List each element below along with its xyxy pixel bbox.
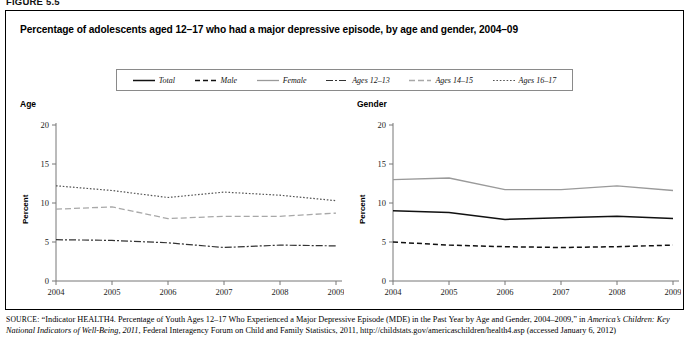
series-line-ages-14-15 [56, 207, 336, 219]
y-tick-label: 10 [41, 198, 50, 208]
line-chart-gender: 05101520200420052006200720082009 [351, 109, 681, 304]
chart-panel-age: Age Percent 0510152020042005200620072008… [14, 99, 344, 304]
y-tick-label: 15 [41, 159, 50, 169]
source-prefix: SOURCE: [6, 315, 39, 324]
chart-legend: TotalMaleFemaleAges 12–13Ages 14–15Ages … [116, 69, 573, 91]
panel-label-age: Age [20, 99, 36, 109]
legend-item-female: Female [257, 76, 307, 85]
legend-swatch-icon [195, 77, 217, 84]
x-tick-label: 2008 [609, 287, 626, 297]
legend-label: Ages 12–13 [352, 76, 390, 85]
legend-swatch-icon [257, 77, 279, 84]
y-tick-label: 20 [41, 120, 50, 130]
legend-label: Female [283, 76, 307, 85]
legend-swatch-icon [326, 77, 348, 84]
legend-item-total: Total [133, 76, 175, 85]
legend-label: Ages 16–17 [519, 76, 557, 85]
x-tick-label: 2004 [48, 287, 66, 297]
legend-label: Ages 14–15 [435, 76, 473, 85]
y-tick-label: 20 [378, 120, 387, 130]
legend-label: Total [159, 76, 175, 85]
x-tick-label: 2006 [497, 287, 514, 297]
series-line-ages-12-13 [56, 240, 336, 248]
source-text-part2: , Federal Interagency Forum on Child and… [139, 326, 617, 335]
x-tick-label: 2006 [160, 287, 177, 297]
legend-item-ages-16-17: Ages 16–17 [493, 76, 557, 85]
x-tick-label: 2007 [216, 287, 233, 297]
legend-item-male: Male [195, 76, 237, 85]
legend-item-ages-12-13: Ages 12–13 [326, 76, 390, 85]
figure-page: FIGURE 5.5 Percentage of adolescents age… [0, 0, 691, 360]
legend-swatch-icon [493, 77, 515, 84]
figure-panel: Percentage of adolescents aged 12–17 who… [5, 10, 684, 310]
x-tick-label: 2009 [328, 287, 345, 297]
x-tick-label: 2004 [385, 287, 403, 297]
x-tick-label: 2005 [104, 287, 121, 297]
y-tick-label: 0 [382, 276, 386, 286]
legend-swatch-icon [409, 77, 431, 84]
y-tick-label: 5 [45, 237, 49, 247]
legend-swatch-icon [133, 77, 155, 84]
chart-title: Percentage of adolescents aged 12–17 who… [20, 23, 660, 36]
x-tick-label: 2007 [553, 287, 570, 297]
series-line-female [393, 178, 673, 191]
figure-label: FIGURE 5.5 [6, 0, 60, 7]
line-chart-age: 05101520200420052006200720082009 [14, 109, 344, 304]
chart-panel-gender: Gender Percent 0510152020042005200620072… [351, 99, 681, 304]
x-tick-label: 2008 [272, 287, 289, 297]
legend-item-ages-14-15: Ages 14–15 [409, 76, 473, 85]
series-line-total [393, 211, 673, 220]
legend-label: Male [221, 76, 237, 85]
y-tick-label: 10 [378, 198, 387, 208]
y-tick-label: 0 [45, 276, 49, 286]
y-tick-label: 15 [378, 159, 387, 169]
panel-label-gender: Gender [357, 99, 387, 109]
y-tick-label: 5 [382, 237, 386, 247]
series-line-ages-16-17 [56, 186, 336, 201]
source-text-part1: “Indicator HEALTH4. Percentage of Youth … [39, 315, 587, 324]
series-line-male [393, 242, 673, 248]
source-note: SOURCE: “Indicator HEALTH4. Percentage o… [6, 314, 681, 337]
x-tick-label: 2005 [441, 287, 458, 297]
x-tick-label: 2009 [665, 287, 682, 297]
